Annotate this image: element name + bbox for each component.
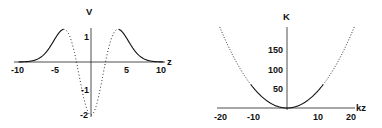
x-tick: 5 xyxy=(124,65,129,75)
x-axis-label: kz xyxy=(356,102,366,113)
y-tick: 1 xyxy=(84,32,89,42)
right-chart: K kz -20 -10 10 20 50 100 150 xyxy=(214,11,366,122)
y-tick: -1 xyxy=(81,85,89,95)
y-tick: -2 xyxy=(80,110,88,120)
x-tick: 20 xyxy=(346,112,356,122)
figure: V z -10 -5 5 10 1 -1 -2 K kz -20 -10 10 … xyxy=(0,0,382,128)
left-chart: V z -10 -5 5 10 1 -1 -2 xyxy=(11,6,172,120)
x-tick: -10 xyxy=(11,65,24,75)
y-tick: 100 xyxy=(268,65,283,75)
x-tick: -10 xyxy=(247,112,260,122)
x-tick: -5 xyxy=(51,65,59,75)
x-tick: 10 xyxy=(313,112,323,122)
x-tick: 10 xyxy=(156,65,166,75)
y-tick: 50 xyxy=(273,84,283,94)
y-tick: 150 xyxy=(268,45,283,55)
y-axis-label: K xyxy=(283,11,290,22)
x-tick: -20 xyxy=(214,112,227,122)
x-axis-label: z xyxy=(167,56,172,67)
y-axis-label: V xyxy=(86,6,93,17)
